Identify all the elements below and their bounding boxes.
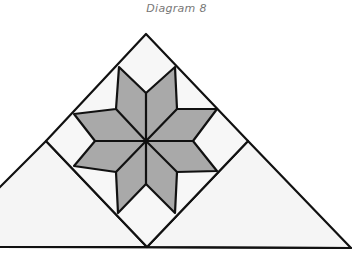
quilt-diagram <box>0 0 353 263</box>
base-line <box>0 247 351 248</box>
